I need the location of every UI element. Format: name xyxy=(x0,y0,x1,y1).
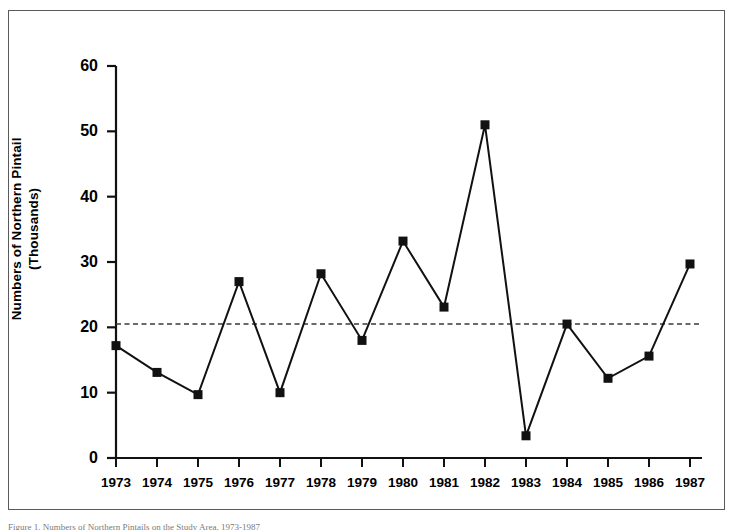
data-point-1973 xyxy=(112,341,121,350)
data-point-1975 xyxy=(194,390,203,399)
data-point-1980 xyxy=(399,237,408,246)
data-point-1981 xyxy=(440,303,449,312)
figure-caption: Figure 1. Numbers of Northern Pintails o… xyxy=(8,522,725,530)
data-point-1983 xyxy=(522,431,531,440)
data-point-1987 xyxy=(686,259,695,268)
data-point-1982 xyxy=(481,120,490,129)
data-point-1986 xyxy=(645,352,654,361)
data-point-1984 xyxy=(563,320,572,329)
data-point-1977 xyxy=(276,388,285,397)
chart-axes xyxy=(107,66,702,467)
data-point-markers xyxy=(112,120,695,440)
data-point-1976 xyxy=(235,277,244,286)
data-point-1974 xyxy=(153,368,162,377)
data-series-line xyxy=(116,125,690,436)
data-point-1985 xyxy=(604,374,613,383)
line-chart: Numbers of Northern Pintail (Thousands) … xyxy=(0,0,736,530)
data-point-1979 xyxy=(358,336,367,345)
chart-canvas xyxy=(0,0,736,530)
data-point-1978 xyxy=(317,269,326,278)
